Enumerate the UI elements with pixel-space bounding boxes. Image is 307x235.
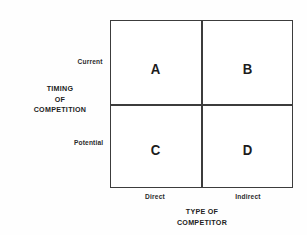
y-axis-title-line-3: COMPETITION (9, 105, 112, 116)
quadrant-a-label: A (151, 60, 161, 77)
y-axis-title-line-2: OF (9, 95, 112, 106)
x-axis-title-line-2: COMPETITOR (145, 218, 259, 229)
quadrant-b: B (202, 26, 293, 110)
x-axis-title: TYPE OF COMPETITOR (145, 207, 259, 228)
y-axis-title-line-1: TIMING (9, 84, 112, 95)
competitor-matrix-figure: A B C D Current Potential TIMING OF COMP… (0, 0, 307, 235)
x-axis-tick-indirect: Indirect (210, 193, 285, 200)
y-axis-title: TIMING OF COMPETITION (9, 84, 112, 116)
x-axis-tick-direct: Direct (117, 193, 192, 200)
quadrant-a: A (110, 26, 201, 110)
quadrant-b-label: B (243, 60, 253, 77)
quadrant-d: D (202, 107, 293, 191)
y-axis-tick-potential: Potential (74, 139, 103, 146)
quadrant-d-label: D (243, 141, 253, 158)
x-axis-title-line-1: TYPE OF (145, 207, 259, 218)
quadrant-c-label: C (151, 141, 161, 158)
quadrant-c: C (110, 107, 201, 191)
y-axis-tick-current: Current (78, 58, 103, 65)
